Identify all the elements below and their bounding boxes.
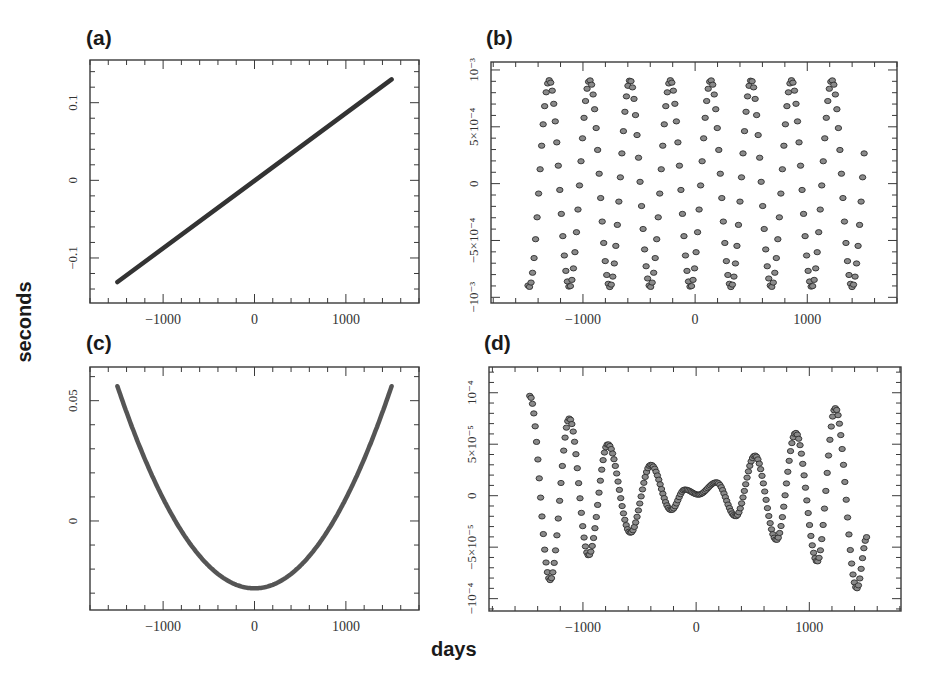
x-tick-label: 0 [692,312,699,327]
panel-b: −100001000−10⁻³−5×10⁻⁴05×10⁻⁴10⁻³ [466,58,897,327]
y-tick-label: −10⁻⁴ [464,582,479,614]
y-tick-label: −10⁻³ [466,282,481,313]
y-tick-label: 0 [65,518,80,525]
panel-a: −100001000−0.100.1 [65,60,419,327]
x-tick-label: 1000 [793,312,821,327]
x-tick-label: −1000 [565,312,601,327]
x-tick-label: 1000 [332,619,360,634]
y-tick-label: 5×10⁻⁵ [464,425,479,463]
data-series [117,386,391,588]
y-tick-label: 0.05 [65,389,80,412]
y-tick-label: −5×10⁻⁴ [466,217,481,263]
y-axis-title: seconds [13,281,36,362]
data-series [525,78,868,290]
panel-label-d: (d) [484,331,511,355]
x-tick-label: −1000 [565,620,601,635]
x-tick-label: 1000 [332,312,360,327]
data-series [527,393,870,591]
x-tick-label: 1000 [795,620,823,635]
figure: −100001000−0.100.1−100001000−10⁻³−5×10⁻⁴… [0,0,931,692]
plot-canvas: −100001000−0.100.1−100001000−10⁻³−5×10⁻⁴… [0,0,931,692]
x-tick-label: −1000 [145,619,181,634]
y-tick-label: 10⁻⁴ [464,380,479,405]
panel-label-a: (a) [86,26,112,50]
plot-frame [90,367,419,610]
y-tick-label: −0.1 [65,246,80,270]
y-tick-label: 5×10⁻⁴ [466,107,481,146]
y-tick-label: 10⁻³ [466,58,481,82]
x-tick-label: 0 [251,312,258,327]
panel-label-c: (c) [86,331,112,355]
panel-label-b: (b) [486,26,513,50]
data-series [117,79,391,282]
x-tick-label: −1000 [145,312,181,327]
y-tick-label: −5×10⁻⁵ [464,524,479,570]
panel-d: −100001000−10⁻⁴−5×10⁻⁵05×10⁻⁵10⁻⁴ [464,367,901,635]
x-tick-label: 0 [251,619,258,634]
y-tick-label: 0.1 [65,95,80,111]
y-tick-label: 0 [466,180,481,187]
x-axis-title: days [431,638,477,661]
y-tick-label: 0 [65,177,80,184]
panel-c: −10000100000.05 [65,367,419,634]
y-tick-label: 0 [464,492,479,499]
x-tick-label: 0 [693,620,700,635]
